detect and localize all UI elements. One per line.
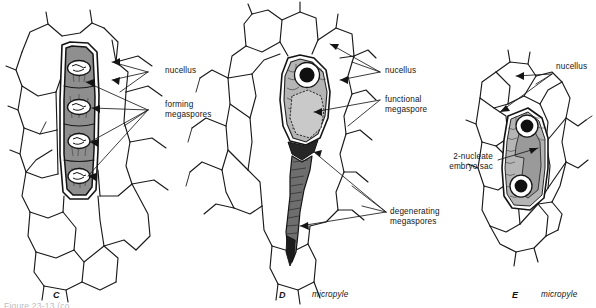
label-c-nucellus: nucellus <box>165 66 196 76</box>
embryo-sac-nucleus-lower <box>515 180 528 193</box>
megaspore-nucleus-3 <box>68 134 90 149</box>
figure-illustration <box>0 0 596 308</box>
label-d-micropyle: micropyle <box>312 290 348 299</box>
megaspore-nucleus-4 <box>68 169 90 184</box>
label-e-embryo-sac: 2-nucleate embryo sac <box>421 152 493 173</box>
functional-megaspore-nucleus <box>299 67 314 82</box>
label-d-degenerating-megaspores: degenerating megaspores <box>390 207 440 228</box>
label-e-micropyle: micropyle <box>541 290 577 299</box>
panel-e-embryo-sac-body <box>502 108 548 210</box>
embryo-sac-nucleus-upper <box>521 120 534 133</box>
panel-d-nucellus-tissue <box>186 2 376 304</box>
panel-letter-e: E <box>512 290 518 300</box>
panel-letter-c: C <box>53 290 60 300</box>
label-c-forming-megaspores: forming megaspores <box>165 100 212 121</box>
megaspore-nucleus-2 <box>68 100 91 115</box>
label-d-functional-megaspore: functional megaspore <box>385 95 427 116</box>
panel-letter-d: D <box>279 290 286 300</box>
partial-caption-text: Figure 23-13 (co <box>4 301 70 308</box>
label-d-nucellus: nucellus <box>385 66 416 76</box>
label-e-nucellus: nucellus <box>556 62 587 72</box>
panel-d-megaspore-body <box>280 55 330 160</box>
megaspore-nucleus-1 <box>68 61 91 76</box>
figure-root: nucellus forming megaspores nucellus fun… <box>0 0 596 308</box>
panel-d-degenerating-tail <box>286 156 312 266</box>
